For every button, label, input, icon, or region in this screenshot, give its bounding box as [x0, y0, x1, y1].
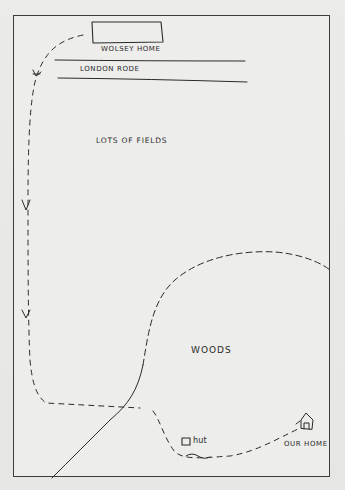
- woods-label: Woods: [191, 345, 232, 355]
- our-home-label: Our Home: [284, 440, 328, 448]
- route-path: [28, 35, 140, 408]
- hut-label: hut: [193, 436, 207, 445]
- woods-boundary: [143, 252, 330, 365]
- wolsey-home-label: Wolsey Home: [101, 45, 161, 53]
- map-page: Wolsey Home London Rode Lots of Fields W…: [0, 0, 345, 490]
- our-home-house-icon: [296, 413, 313, 429]
- woods-boundary-lower: [52, 365, 143, 478]
- map-sketch: [0, 0, 345, 490]
- route-arrow-icons: [22, 70, 41, 318]
- london-road-label: London Rode: [80, 65, 140, 73]
- route-path-to-home: [153, 411, 300, 458]
- wolsey-home-building-icon: [92, 22, 163, 43]
- hut-square-icon: [182, 438, 190, 445]
- lots-of-fields-label: Lots of Fields: [96, 136, 167, 145]
